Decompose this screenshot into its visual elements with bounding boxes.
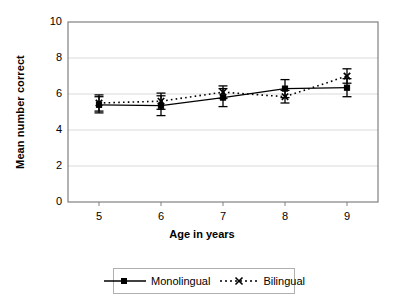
legend-swatch-bilingual-icon (219, 275, 259, 287)
x-tick-7: 7 (203, 211, 243, 222)
x-tick-5: 5 (79, 211, 119, 222)
y-axis-title: Mean number correct (14, 55, 26, 169)
plot-area (0, 0, 404, 308)
y-tick-8: 8 (34, 52, 62, 63)
y-tick-6: 6 (34, 88, 62, 99)
y-tick-4: 4 (34, 124, 62, 135)
x-tick-9: 9 (327, 211, 367, 222)
legend-label-monolingual: Monolingual (151, 276, 210, 287)
legend-swatch-monolingual-icon (103, 275, 147, 287)
legend-item-monolingual[interactable]: Monolingual (103, 275, 210, 287)
x-tick-8: 8 (265, 211, 305, 222)
legend-label-bilingual: Bilingual (263, 276, 305, 287)
y-tick-0: 0 (34, 196, 62, 207)
x-axis-title: Age in years (0, 228, 404, 240)
y-axis-title-wrap: Mean number correct (10, 22, 30, 202)
y-tick-10: 10 (34, 16, 62, 27)
y-tick-2: 2 (34, 160, 62, 171)
plot-frame (68, 22, 378, 202)
chart-container: Mean number correct 0246810 56789 Age in… (0, 0, 404, 308)
legend-item-bilingual[interactable]: Bilingual (219, 275, 305, 287)
x-tick-6: 6 (141, 211, 181, 222)
chart-legend: Monolingual Bilingual (113, 268, 295, 294)
marker-monolingual-9 (344, 85, 349, 90)
